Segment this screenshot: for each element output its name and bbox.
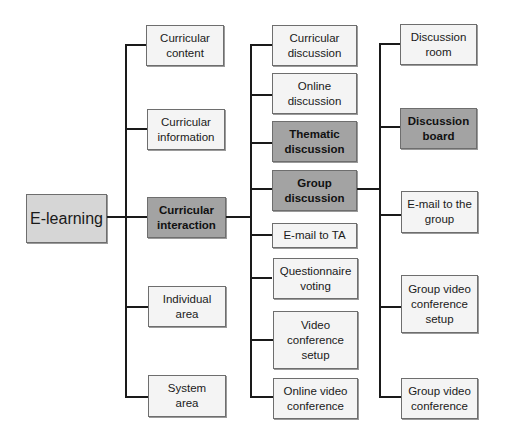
node-thematic-discussion: Thematic discussion xyxy=(272,121,357,162)
node-e-learning: E-learning xyxy=(26,194,107,243)
connector-curricular-discussion xyxy=(250,44,272,46)
node-label: Group video conference xyxy=(408,384,471,414)
node-group-discussion: Group discussion xyxy=(272,170,357,211)
node-curricular-content: Curricular content xyxy=(146,25,224,66)
connector-e-mail-to-ta xyxy=(250,234,272,236)
node-label: Curricular interaction xyxy=(157,203,216,233)
node-discussion-board: Discussion board xyxy=(400,108,477,149)
connector-questionnaire-voting xyxy=(250,277,272,279)
node-label: Discussion room xyxy=(411,30,467,60)
connector-individual-area xyxy=(125,306,148,308)
connector-root xyxy=(107,216,147,218)
node-individual-area: Individual area xyxy=(148,286,226,327)
connector-level2-spine xyxy=(250,44,252,398)
connector-video-conference-setup xyxy=(250,339,273,341)
node-label: E-learning xyxy=(30,210,103,228)
node-e-mail-to-ta: E-mail to TA xyxy=(272,223,357,248)
node-label: Online discussion xyxy=(288,79,342,109)
node-label: Online video conference xyxy=(284,384,348,414)
connector-curricular-interaction xyxy=(226,216,252,218)
node-label: Group video conference setup xyxy=(408,282,471,327)
node-online-video-conference: Online video conference xyxy=(273,378,358,419)
connector-system-area xyxy=(125,396,148,398)
connector-group-discussion-out xyxy=(357,188,381,190)
node-group-video-conference: Group video conference xyxy=(401,378,478,419)
node-label: Curricular discussion xyxy=(288,31,342,61)
connector-level3-spine xyxy=(379,43,381,398)
node-curricular-information: Curricular information xyxy=(147,109,225,150)
node-label: Group discussion xyxy=(284,176,344,206)
node-label: System area xyxy=(168,381,206,411)
node-curricular-interaction: Curricular interaction xyxy=(147,197,226,238)
connector-online-discussion xyxy=(250,94,272,96)
node-system-area: System area xyxy=(148,375,226,417)
node-label: E-mail to TA xyxy=(283,228,345,243)
connector-thematic-discussion xyxy=(250,142,272,144)
node-video-conference-setup: Video conference setup xyxy=(273,311,358,369)
connector-discussion-room xyxy=(379,43,400,45)
connector-group-discussion xyxy=(250,188,272,190)
node-label: Individual area xyxy=(163,292,212,322)
e-learning-hierarchy-diagram: E-learning Curricular content Curricular… xyxy=(0,0,506,437)
node-group-video-conference-setup: Group video conference setup xyxy=(401,275,478,333)
connector-level1-spine xyxy=(125,44,127,398)
connector-group-video-conference xyxy=(379,396,401,398)
node-label: Discussion board xyxy=(408,114,469,144)
node-e-mail-to-the-group: E-mail to the group xyxy=(401,191,478,233)
node-label: Curricular content xyxy=(160,31,210,61)
node-curricular-discussion: Curricular discussion xyxy=(272,25,357,66)
node-label: Video conference setup xyxy=(287,318,344,363)
node-label: E-mail to the group xyxy=(407,197,472,227)
node-questionnaire-voting: Questionnaire voting xyxy=(273,258,358,299)
node-discussion-room: Discussion room xyxy=(400,24,477,65)
connector-group-video-conference-setup xyxy=(379,306,401,308)
node-label: Thematic discussion xyxy=(284,127,344,157)
node-online-discussion: Online discussion xyxy=(272,73,357,114)
connector-online-video-conference xyxy=(250,396,273,398)
node-label: Curricular information xyxy=(158,115,215,145)
connector-curricular-information xyxy=(125,128,147,130)
connector-curricular-content xyxy=(125,44,146,46)
connector-e-mail-to-the-group xyxy=(379,214,401,216)
node-label: Questionnaire voting xyxy=(280,264,352,294)
connector-discussion-board xyxy=(379,126,400,128)
